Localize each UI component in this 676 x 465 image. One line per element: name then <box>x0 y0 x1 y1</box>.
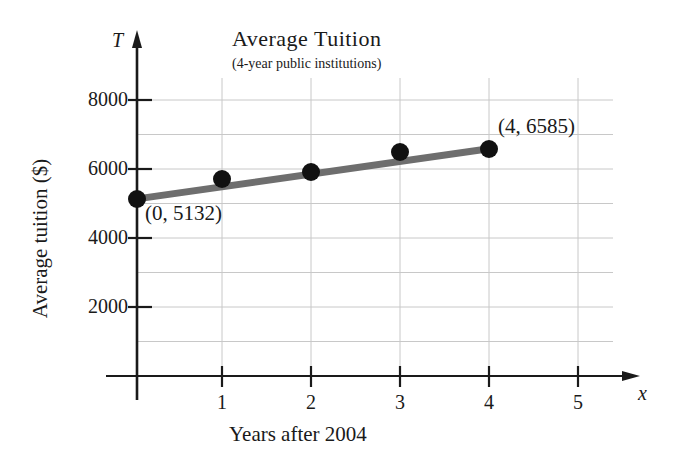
y-axis-symbol: T <box>112 30 123 50</box>
data-point-3 <box>391 143 409 161</box>
y-axis-title: Average tuition ($) <box>30 129 51 349</box>
ytick-label-6000: 6000 <box>54 158 128 178</box>
xtick-label-4: 4 <box>469 392 509 412</box>
y-axis-arrowhead <box>132 30 142 48</box>
data-points <box>128 140 498 208</box>
x-axis-symbol: x <box>638 383 647 403</box>
xtick-label-2: 2 <box>291 392 331 412</box>
y-axis <box>132 30 142 400</box>
data-point-2 <box>302 163 320 181</box>
data-point-4 <box>480 140 498 158</box>
x-axis-title: Years after 2004 <box>229 424 367 445</box>
data-point-0 <box>128 190 146 208</box>
annotation-point-0: (0, 5132) <box>145 203 222 224</box>
xtick-label-3: 3 <box>380 392 420 412</box>
data-point-1 <box>213 170 231 188</box>
xtick-label-1: 1 <box>202 392 242 412</box>
ytick-label-4000: 4000 <box>54 227 128 247</box>
ytick-label-8000: 8000 <box>54 89 128 109</box>
chart-figure: Average Tuition (4-year public instituti… <box>0 0 676 465</box>
x-axis <box>106 371 640 381</box>
x-axis-arrowhead <box>622 371 640 381</box>
annotation-point-4: (4, 6585) <box>498 116 575 137</box>
chart-subtitle: (4-year public institutions) <box>232 57 381 71</box>
ytick-label-2000: 2000 <box>54 296 128 316</box>
xtick-label-5: 5 <box>558 392 598 412</box>
chart-title: Average Tuition <box>232 28 381 50</box>
